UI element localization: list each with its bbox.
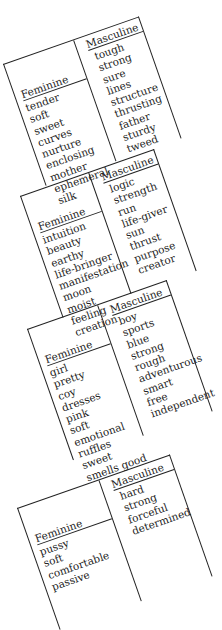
word-table-4: Feminine pussy soft comfortable passive … [17, 454, 213, 629]
word-table-3: Feminine girl pretty coy dresses pink so… [27, 280, 213, 460]
